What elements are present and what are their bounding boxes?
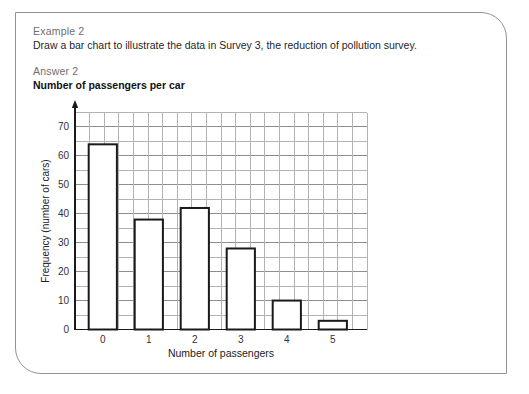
example-panel: Example 2 Draw a bar chart to illustrate… (15, 12, 507, 374)
x-axis-title: Number of passengers (168, 347, 274, 359)
x-tick-label: 0 (100, 334, 106, 345)
answer-label: Answer 2 (33, 65, 78, 77)
x-tick-label: 5 (330, 334, 336, 345)
question-text: Draw a bar chart to illustrate the data … (33, 39, 417, 51)
bar-chart: 010203040506070012345Number of passenger… (39, 99, 389, 367)
x-tick-label: 4 (284, 334, 290, 345)
y-tick-label: 60 (58, 150, 70, 161)
y-tick-label: 0 (63, 324, 69, 335)
y-tick-label: 10 (58, 295, 70, 306)
y-axis-title: Frequency (number of cars) (40, 159, 51, 282)
y-axis-arrow-icon (72, 100, 78, 108)
y-tick-label: 40 (58, 208, 70, 219)
y-tick-label: 50 (58, 179, 70, 190)
x-tick-label: 3 (238, 334, 244, 345)
x-tick-label: 1 (146, 334, 152, 345)
bar-2 (181, 208, 209, 330)
bar-4 (273, 301, 301, 330)
page: Example 2 Draw a bar chart to illustrate… (0, 0, 529, 394)
bar-1 (135, 220, 163, 330)
y-tick-label: 30 (58, 237, 70, 248)
example-label: Example 2 (33, 25, 84, 37)
bar-3 (227, 248, 255, 329)
chart-title: Number of passengers per car (33, 79, 185, 91)
bar-5 (319, 321, 347, 330)
y-tick-label: 20 (58, 266, 70, 277)
bar-0 (89, 144, 117, 329)
y-tick-label: 70 (58, 121, 70, 132)
x-tick-label: 2 (192, 334, 198, 345)
